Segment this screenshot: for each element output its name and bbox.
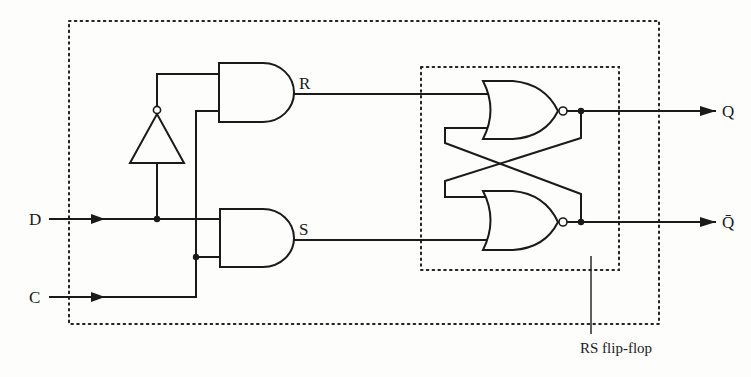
and-gate-s [220, 209, 489, 267]
input-label-d: D [29, 210, 41, 229]
junction-dot [193, 254, 199, 260]
signal-label-r: R [299, 74, 311, 93]
input-d-wire [49, 214, 219, 224]
output-label-qbar: Q̄ [722, 213, 734, 232]
and-gate-r [219, 63, 489, 122]
signal-label-s: S [299, 220, 308, 239]
output-label-q: Q [722, 102, 734, 121]
input-label-c: C [29, 288, 40, 307]
nor-gate-q [483, 81, 716, 139]
d-latch-diagram: R S D C Q Q̄ RS flip-flop [0, 0, 751, 377]
input-c-wire [49, 111, 219, 302]
not-gate [130, 74, 219, 222]
rs-flip-flop-caption: RS flip-flop [580, 340, 652, 356]
nor-gate-qbar [483, 191, 716, 250]
